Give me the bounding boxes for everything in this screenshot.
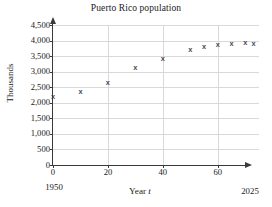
gridline-horizontal [53,56,259,57]
x-axis-arrow-icon [245,162,252,168]
y-axis-tick-label: 2,500 [31,83,50,92]
x-axis-title-text: Year [129,186,148,196]
y-axis-tick-mark [50,103,53,104]
y-axis-tick-mark [50,87,53,88]
gridline-horizontal [53,25,259,26]
y-axis-tick-label: 1,500 [31,114,50,123]
scatter-point: x [228,40,235,47]
y-axis-line [52,23,53,166]
y-axis-tick-mark [50,41,53,42]
gridline-horizontal [53,118,259,119]
x-axis-title: Year t [100,186,180,196]
y-axis-tick-label: 4,500 [31,21,50,30]
axis-start-year-label: 1950 [39,182,69,192]
y-axis-tick-label: 4,000 [31,36,50,45]
y-axis-tick-mark [50,118,53,119]
gridline-vertical [108,25,109,165]
y-axis-tick-label: 1,000 [31,129,50,138]
scatter-point: x [214,41,221,48]
x-axis-tick-mark [218,165,219,168]
scatter-point: x [77,88,84,95]
scatter-point: x [242,39,249,46]
gridline-horizontal [53,149,259,150]
x-axis-variable: t [148,186,151,196]
scatter-point: x [201,43,208,50]
x-axis-tick-label: 0 [39,168,67,177]
scatter-point: x [159,55,166,62]
gridline-horizontal [53,72,259,73]
y-axis-tick-label: 500 [37,145,50,154]
x-axis-tick-mark [108,165,109,168]
y-axis-tick-mark [50,149,53,150]
scatter-point: x [104,79,111,86]
y-axis-tick-label: 3,500 [31,52,50,61]
y-axis-tick-mark [50,72,53,73]
x-axis-tick-mark [53,165,54,168]
y-axis-tick-mark [50,134,53,135]
plot-area: xxxxxxxxxxx [53,25,259,165]
scatter-point: x [187,46,194,53]
x-axis-tick-mark [163,165,164,168]
gridline-horizontal [53,134,259,135]
chart-figure: Puerto Rico population Thousands 05001,0… [0,0,272,207]
gridline-vertical [163,25,164,165]
scatter-point: x [132,64,139,71]
y-axis-tick-label: 2,000 [31,98,50,107]
y-axis-tick-mark [50,25,53,26]
y-axis-tick-mark [50,56,53,57]
x-axis-tick-label: 20 [94,168,122,177]
scatter-point: x [250,40,257,47]
x-axis-tick-label: 60 [204,168,232,177]
y-axis-arrow-icon [50,17,56,24]
axis-end-year-label: 2025 [233,186,267,196]
gridline-horizontal [53,103,259,104]
x-axis-tick-label: 40 [149,168,177,177]
y-axis-tick-label: 3,000 [31,67,50,76]
